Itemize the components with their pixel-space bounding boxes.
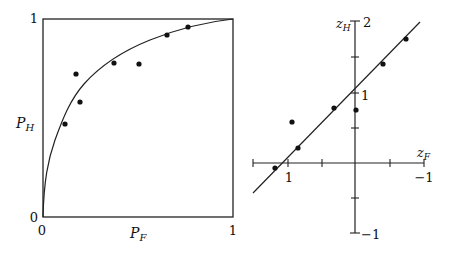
data-point [380, 61, 385, 66]
tick-x1: 1 [229, 223, 237, 238]
tick-yneg1: −1 [361, 227, 380, 242]
tick-x0: 0 [38, 223, 46, 238]
data-point [136, 61, 141, 66]
data-point [185, 24, 190, 29]
data-point [73, 71, 78, 76]
roc-plot: 1 0 0 1 PH PF [15, 11, 237, 243]
data-point [295, 145, 300, 150]
data-point [272, 165, 277, 170]
data-point [331, 105, 336, 110]
tick-y2: 2 [363, 15, 371, 30]
roc-curve [43, 19, 233, 217]
tick-y1: 1 [30, 11, 38, 26]
tick-x-pos1: 1 [285, 170, 293, 185]
tick-y0: 0 [30, 210, 38, 225]
z-x-axis-label: zF [416, 145, 431, 162]
figure: 1 0 0 1 PH PF [0, 0, 449, 253]
y-axis-label: PH [15, 115, 34, 133]
z-y-axis-label: zH [335, 16, 351, 33]
data-point [353, 107, 358, 112]
data-point [164, 32, 169, 37]
data-point [62, 121, 67, 126]
roc-plot-frame [43, 19, 233, 217]
data-point [403, 36, 408, 41]
z-plot: zH 2 1 −1 zF 1 −1 [253, 15, 434, 242]
data-point [289, 119, 294, 124]
data-point [77, 99, 82, 104]
roc-points [62, 24, 190, 126]
tick-y1: 1 [361, 88, 369, 103]
tick-x-neg1: −1 [414, 170, 433, 185]
data-point [111, 60, 116, 65]
x-axis-label: PF [129, 225, 147, 243]
